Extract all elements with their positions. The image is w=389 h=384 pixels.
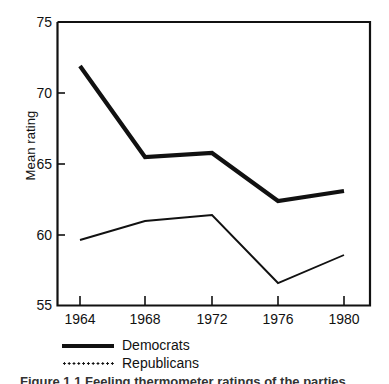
series-line-republicans <box>80 215 344 283</box>
x-tick-label-1968: 1968 <box>115 311 175 327</box>
x-tick-marks <box>80 296 344 305</box>
legend-label-democrats: Democrats <box>122 336 190 354</box>
legend-label-republicans: Republicans <box>122 354 199 372</box>
figure-container: Mean rating 75 70 65 60 55 <box>0 0 389 384</box>
series-line-democrats <box>80 66 344 201</box>
x-tick-label-1964: 1964 <box>50 311 110 327</box>
legend-item-democrats: Democrats <box>0 336 389 354</box>
x-tick-label-1976: 1976 <box>248 311 308 327</box>
legend: Democrats Republicans <box>0 336 389 372</box>
legend-item-republicans: Republicans <box>0 354 389 372</box>
x-tick-label-1972: 1972 <box>182 311 242 327</box>
figure-caption: Figure 1.1 Feeling thermometer ratings o… <box>20 374 389 384</box>
legend-line-solid-icon <box>62 344 114 348</box>
legend-line-dotted-icon <box>62 362 114 365</box>
x-tick-label-1980: 1980 <box>314 311 374 327</box>
